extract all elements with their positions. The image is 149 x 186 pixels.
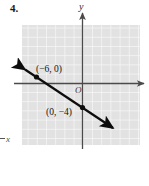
origin-label: O (75, 85, 82, 95)
point-marker-y-intercept (80, 105, 85, 110)
figure-container: 4. y (0, 0, 149, 186)
label-y-intercept: (0, −4) (46, 107, 72, 118)
point-marker-x-intercept (34, 74, 39, 79)
y-axis-label: y (78, 1, 84, 12)
coordinate-graph: y O (−6, 0) (0, −4) x (0, 0, 149, 186)
label-x-intercept: (−6, 0) (36, 64, 62, 75)
x-axis-label: x (5, 134, 10, 144)
